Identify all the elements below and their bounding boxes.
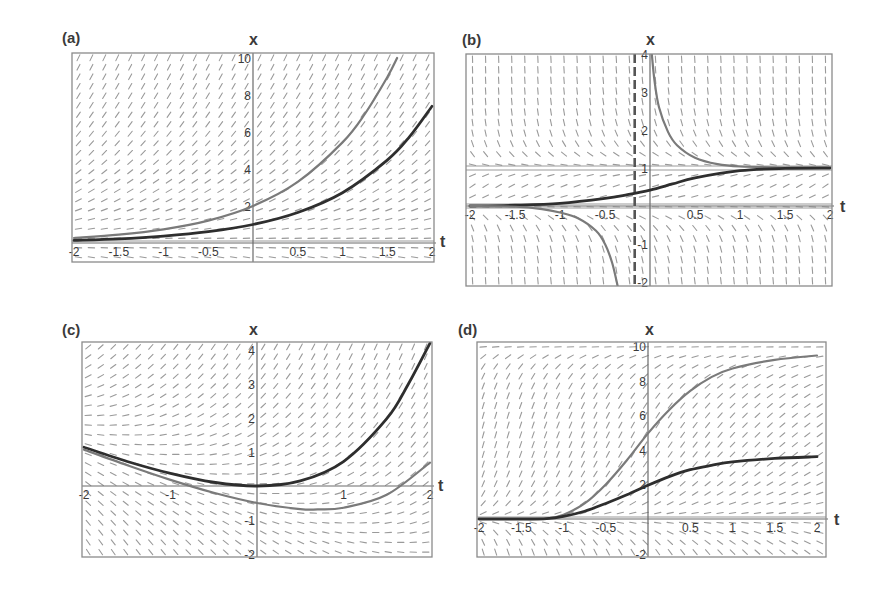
x-tick-label: -1 — [244, 514, 255, 528]
t-tick-label: 1 — [729, 521, 736, 535]
x-tick-label: 3 — [641, 86, 648, 100]
t-tick-label: 2 — [814, 521, 821, 535]
panel-a: -2-1.5-1-0.50.511.52246810 — [69, 52, 436, 262]
t-tick-label: -1.5 — [505, 208, 526, 222]
t-tick-label: -1 — [158, 245, 169, 259]
x-tick-label: 6 — [639, 409, 646, 423]
t-tick-label: -1.5 — [511, 521, 532, 535]
solution-curve — [74, 58, 397, 238]
t-tick-label: -0.5 — [198, 245, 219, 259]
x-tick-label: 2 — [641, 124, 648, 138]
x-tick-label: 1 — [248, 446, 255, 460]
x-tick-label: 8 — [244, 89, 251, 103]
t-tick-label: -1.5 — [108, 245, 129, 259]
t-tick-label: 1.5 — [766, 521, 783, 535]
t-tick-label: 1.5 — [777, 208, 794, 222]
t-tick-label: -1 — [555, 208, 566, 222]
x-tick-label: 1 — [641, 162, 648, 176]
panel-c: -2-112-2-11234 — [79, 342, 434, 562]
t-tick-label: 1 — [339, 245, 346, 259]
x-tick-label: -2 — [244, 548, 255, 562]
panel-d: -2-1.5-1-0.50.511.52-2246810 — [474, 340, 828, 562]
t-tick-label: 0.5 — [687, 208, 704, 222]
x-tick-label: 3 — [248, 378, 255, 392]
t-tick-label: -2 — [69, 245, 80, 259]
solution-curve — [652, 54, 830, 168]
x-tick-label: 2 — [248, 412, 255, 426]
x-tick-label: -1 — [637, 238, 648, 252]
x-tick-label: 4 — [639, 444, 646, 458]
x-tick-label: 8 — [639, 375, 646, 389]
direction-field-figure: -2-1.5-1-0.50.511.52246810 -2-1.5-1-0.50… — [0, 0, 887, 592]
x-tick-label: 10 — [238, 52, 252, 66]
x-tick-label: 4 — [244, 163, 251, 177]
t-tick-label: -2 — [79, 488, 90, 502]
x-tick-label: 4 — [248, 344, 255, 358]
t-tick-label: 1.5 — [379, 245, 396, 259]
t-tick-label: -0.5 — [595, 521, 616, 535]
x-tick-label: -2 — [635, 548, 646, 562]
x-tick-label: -2 — [637, 276, 648, 290]
t-tick-label: -2 — [474, 521, 485, 535]
t-tick-label: 1 — [737, 208, 744, 222]
x-tick-label: 4 — [641, 48, 648, 62]
t-tick-label: 0.5 — [289, 245, 306, 259]
panel-b: -2-1.5-1-0.50.511.52-2-11234 — [465, 48, 834, 290]
x-tick-label: 6 — [244, 126, 251, 140]
t-tick-label: -1 — [558, 521, 569, 535]
t-tick-label: 0.5 — [682, 521, 699, 535]
t-tick-label: 1 — [340, 488, 347, 502]
t-tick-label: -1 — [165, 488, 176, 502]
t-tick-label: -0.5 — [595, 208, 616, 222]
